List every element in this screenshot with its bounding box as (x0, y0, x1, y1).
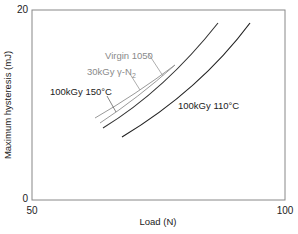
label-30kgy-n2: 30kGy γ-N2 (87, 66, 136, 79)
label-100kgy-110c: 100kGy 110°C (178, 100, 239, 111)
x-tick-min: 50 (26, 205, 38, 216)
y-tick-max: 20 (17, 4, 29, 15)
series-100kgy-110c-line (122, 23, 250, 137)
label-100kgy-150c: 100kGy 150°C (50, 86, 112, 97)
y-tick-min: 0 (22, 193, 28, 204)
plot-frame (32, 10, 285, 200)
y-axis-label: Maximum hysteresis (mJ) (2, 51, 13, 159)
label-virgin-1050: Virgin 1050 (105, 50, 153, 61)
x-axis-label: Load (N) (140, 216, 177, 227)
chart-canvas: 20 0 50 100 Load (N) Maximum hysteresis … (0, 0, 298, 234)
x-tick-max: 100 (277, 205, 294, 216)
